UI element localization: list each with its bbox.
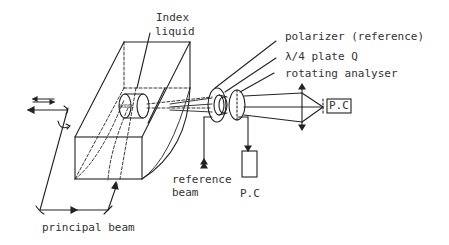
label-pc-main: P.C [329, 100, 349, 112]
label-polarizer: polarizer (reference) [285, 31, 424, 43]
index-liquid-leader [137, 33, 150, 88]
label-reference-beam-line2: beam [172, 187, 199, 199]
label-index-liquid-line2: liquid [155, 26, 195, 38]
reference-output [238, 117, 257, 177]
label-pc-reference: P.C [240, 188, 260, 200]
label-rotating-analyser: rotating analyser [285, 68, 398, 80]
label-principal-beam: principal beam [42, 222, 135, 234]
hidden-edges [75, 42, 190, 180]
component-leaders [215, 41, 276, 92]
optical-setup-diagram: Index liquid MODEL polarizer (reference)… [0, 0, 449, 245]
label-index-liquid-line1: Index [156, 12, 189, 24]
principal-beam-path [28, 97, 118, 214]
rotating-analyser [229, 90, 245, 120]
label-quarter-wave-plate: λ/4 plate Q [285, 51, 358, 63]
reference-beam [201, 117, 212, 168]
analysed-beam [244, 93, 323, 122]
label-reference-beam-line1: reference [172, 174, 232, 186]
label-model: MODEL [119, 103, 134, 109]
